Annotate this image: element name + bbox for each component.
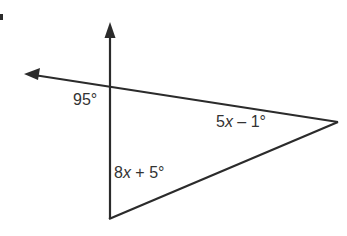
up-arrow-icon [105,22,116,38]
bottom-angle-coef: 8 [114,164,123,181]
right-angle-const: – 1° [233,113,266,130]
bottom-angle-const: + 5° [131,164,165,181]
right-angle-coef: 5 [216,113,225,130]
exterior-angle-label: 95° [73,92,97,108]
right-angle-label: 5x – 1° [216,114,266,130]
triangle-diagram [0,0,347,236]
left-arrow-icon [24,68,40,80]
right-angle-var: x [225,113,233,130]
bottom-angle-var: x [123,164,131,181]
bottom-angle-label: 8x + 5° [114,165,164,181]
stray-mark [0,14,3,20]
